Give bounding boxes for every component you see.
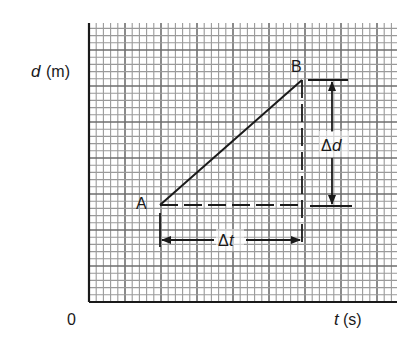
origin-label: 0 <box>67 311 76 328</box>
graph-paper-grid <box>89 23 397 302</box>
distance-time-graph: d (m) 0 t (s) A B Δ d Δ t <box>0 0 414 347</box>
y-axis-label-symbol: d <box>31 62 41 81</box>
x-axis-label-symbol: t <box>334 310 340 329</box>
delta-t-label-delta: Δ <box>218 232 229 249</box>
point-a-label: A <box>136 195 147 212</box>
delta-d-label-delta: Δ <box>321 137 332 154</box>
x-axis-label-unit: (s) <box>343 311 362 328</box>
delta-d-label-symbol: d <box>332 136 342 155</box>
point-b-label: B <box>291 58 302 75</box>
y-axis-label-unit: (m) <box>46 63 70 80</box>
